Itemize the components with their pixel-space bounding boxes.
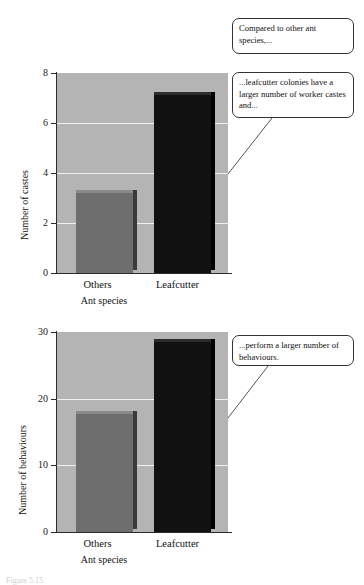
y-tick-castes-4 xyxy=(51,173,56,174)
bar-others-behaviours-top xyxy=(76,411,133,414)
x-axis-behaviours xyxy=(56,532,232,533)
leader-line-castes xyxy=(220,112,280,182)
bar-others-castes-side xyxy=(133,190,137,270)
bar-leafcutter-castes xyxy=(154,95,211,273)
y-tick-behaviours-0 xyxy=(51,532,56,533)
y-tick-label-castes-6: 6 xyxy=(22,118,48,128)
y-tick-label-behaviours-0: 0 xyxy=(22,527,48,537)
bar-others-castes-face xyxy=(76,193,133,273)
y-tick-label-behaviours-30: 30 xyxy=(22,327,48,337)
bar-others-behaviours-side xyxy=(133,411,137,529)
figure-caption-cutoff: Figure 5.15 xyxy=(6,576,306,585)
y-axis-castes xyxy=(56,72,57,274)
y-tick-label-castes-0: 0 xyxy=(22,268,48,278)
leader-line-behaviours xyxy=(218,360,278,425)
bar-leafcutter-behaviours xyxy=(154,342,211,532)
x-category-label-others-behaviours: Others xyxy=(60,538,135,550)
y-tick-castes-8 xyxy=(51,73,56,74)
y-tick-castes-0 xyxy=(51,273,56,274)
y-tick-behaviours-20 xyxy=(51,399,56,400)
x-category-label-leafcutter-behaviours: Leafcutter xyxy=(140,538,215,550)
bar-others-castes xyxy=(76,193,133,273)
y-axis-behaviours xyxy=(56,331,57,533)
y-tick-behaviours-30 xyxy=(51,332,56,333)
bar-others-castes-top xyxy=(76,190,133,193)
bar-leafcutter-behaviours-face xyxy=(154,342,211,532)
x-axis-title-behaviours: Ant species xyxy=(0,554,286,565)
bar-others-behaviours xyxy=(76,414,133,532)
y-tick-castes-6 xyxy=(51,123,56,124)
bar-leafcutter-behaviours-top xyxy=(154,339,211,342)
bar-leafcutter-castes-top xyxy=(154,92,211,95)
bar-others-behaviours-face xyxy=(76,414,133,532)
bar-leafcutter-castes-face xyxy=(154,95,211,273)
plot-area-castes xyxy=(57,73,228,273)
y-tick-label-castes-8: 8 xyxy=(22,68,48,78)
y-tick-label-behaviours-20: 20 xyxy=(22,394,48,404)
x-category-label-leafcutter-castes: Leafcutter xyxy=(140,279,215,291)
figure-container: 8 6 4 2 0 Number of castes Others Leafcu… xyxy=(0,0,364,585)
y-axis-title-behaviours: Number of behaviours xyxy=(17,425,28,515)
bar-leafcutter-castes-side xyxy=(211,92,215,270)
y-tick-behaviours-10 xyxy=(51,465,56,466)
bar-leafcutter-behaviours-side xyxy=(211,339,215,529)
plot-area-behaviours xyxy=(57,332,228,532)
x-axis-castes xyxy=(56,273,232,274)
y-axis-title-castes: Number of castes xyxy=(19,170,30,240)
callout-compared-to-other-ant-species: Compared to other ant species,... xyxy=(232,18,354,54)
x-category-label-others-castes: Others xyxy=(60,279,135,291)
y-tick-castes-2 xyxy=(51,223,56,224)
